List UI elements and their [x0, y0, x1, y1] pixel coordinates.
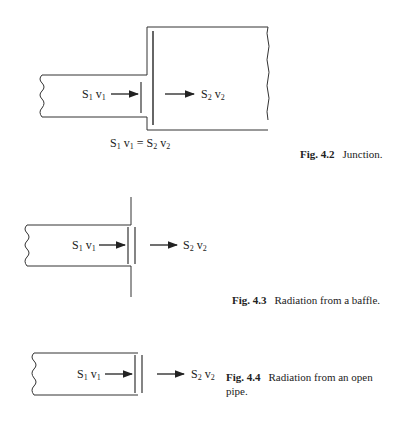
fig-4-4-diagram	[32, 353, 184, 395]
label-s1-v1: S1 v1	[72, 238, 96, 256]
fig-4-2-diagram	[40, 27, 269, 130]
break-line	[25, 225, 29, 266]
label-s2-v2: S2 v2	[191, 367, 215, 385]
label-s1-v1: S1 v1	[82, 87, 106, 105]
fig-4-4-caption: Fig. 4.4Radiation from an openpipe.	[226, 370, 406, 398]
fig-4-3-diagram	[25, 197, 177, 297]
label-s2-v2: S2 v2	[183, 238, 207, 256]
fig-4-2-caption: Fig. 4.2Junction.	[300, 147, 383, 161]
label-s2-v2: S2 v2	[201, 87, 225, 105]
fig-4-3-caption: Fig. 4.3Radiation from a baffle.	[232, 293, 380, 307]
figure-drawings	[0, 0, 411, 429]
label-s1-v1: S1 v1	[77, 367, 101, 385]
break-line	[32, 353, 36, 395]
continuity-equation: S1 v1 = S2 v2	[110, 136, 170, 154]
break-line	[40, 75, 44, 117]
break-line	[267, 27, 269, 120]
